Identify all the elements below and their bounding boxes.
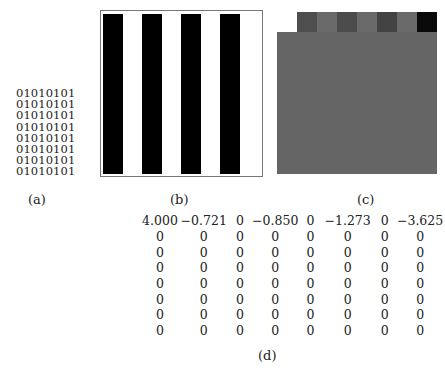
matrix-cell: 0	[230, 276, 251, 292]
matrix-cell: 0	[374, 213, 395, 229]
coefficient-cell	[357, 12, 377, 32]
matrix-cell: 0	[374, 229, 395, 245]
matrix-row: 00000000	[142, 323, 445, 339]
matrix-row: 4.000−0.7210−0.8500−1.2730−3.625	[142, 213, 445, 229]
matrix-cell: 0	[178, 229, 230, 245]
matrix-cell: 0	[300, 244, 321, 260]
matrix-cell: 0	[250, 307, 300, 323]
matrix-cell: 0	[374, 307, 395, 323]
matrix-cell: −1.273	[321, 213, 374, 229]
matrix-cell: 0	[300, 323, 321, 339]
black-stripe	[103, 14, 123, 174]
matrix-cell: 0	[374, 323, 395, 339]
matrix-cell: 0	[178, 307, 230, 323]
matrix-cell: 0	[321, 291, 374, 307]
matrix-cell: 0	[300, 276, 321, 292]
caption-d: (d)	[258, 348, 276, 363]
matrix-cell: 0	[395, 229, 445, 245]
matrix-cell: 0	[178, 276, 230, 292]
coefficient-cell	[317, 12, 337, 32]
matrix-row: 00000000	[142, 244, 445, 260]
matrix-cell: 0	[250, 260, 300, 276]
matrix-cell: 0	[321, 307, 374, 323]
matrix-cell: 0	[395, 291, 445, 307]
matrix-cell: 0	[230, 307, 251, 323]
matrix-cell: 0	[178, 291, 230, 307]
matrix-row: 00000000	[142, 291, 445, 307]
dct-coefficient-matrix: 4.000−0.7210−0.8500−1.2730−3.62500000000…	[142, 213, 445, 339]
stripe-image	[100, 10, 263, 177]
dct-coefficient-image	[277, 12, 437, 174]
matrix-cell: 0	[178, 323, 230, 339]
matrix-cell: 0	[321, 260, 374, 276]
coefficient-cell	[377, 12, 397, 32]
matrix-cell: −3.625	[395, 213, 445, 229]
matrix-cell: 0	[142, 323, 178, 339]
matrix-cell: 0	[250, 229, 300, 245]
matrix-cell: 0	[395, 260, 445, 276]
matrix-cell: 0	[321, 244, 374, 260]
matrix-cell: 0	[178, 260, 230, 276]
matrix-cell: 0	[142, 229, 178, 245]
matrix-cell: 0	[321, 229, 374, 245]
caption-a: (a)	[28, 192, 46, 207]
bit-pattern-block: 01010101 01010101 01010101 01010101 0101…	[16, 88, 75, 178]
matrix-cell: 0	[374, 291, 395, 307]
coefficient-block-background	[277, 32, 437, 174]
matrix-cell: 0	[250, 276, 300, 292]
matrix-cell: 0	[230, 213, 251, 229]
matrix-cell: 0	[395, 244, 445, 260]
matrix-row: 00000000	[142, 260, 445, 276]
matrix-cell: 0	[300, 260, 321, 276]
matrix-cell: 0	[250, 323, 300, 339]
matrix-cell: 0	[250, 244, 300, 260]
caption-b: (b)	[170, 192, 188, 207]
matrix-cell: 0	[142, 276, 178, 292]
matrix-cell: 0	[300, 229, 321, 245]
matrix-cell: 0	[300, 213, 321, 229]
matrix-cell: 0	[142, 260, 178, 276]
coefficient-cell	[297, 12, 317, 32]
matrix-row: 00000000	[142, 276, 445, 292]
matrix-cell: 0	[321, 276, 374, 292]
matrix-cell: 0	[230, 323, 251, 339]
coefficient-cell	[417, 12, 437, 32]
caption-c: (c)	[357, 192, 374, 207]
matrix-cell: 0	[395, 307, 445, 323]
black-stripe	[142, 14, 162, 174]
matrix-cell: 4.000	[142, 213, 178, 229]
matrix-cell: −0.850	[250, 213, 300, 229]
matrix-cell: 0	[395, 276, 445, 292]
bit-row: 01010101	[16, 166, 75, 177]
matrix-row: 00000000	[142, 229, 445, 245]
matrix-cell: 0	[142, 291, 178, 307]
matrix-cell: 0	[374, 244, 395, 260]
matrix-cell: 0	[374, 260, 395, 276]
matrix-cell: 0	[142, 244, 178, 260]
matrix-cell: 0	[300, 291, 321, 307]
matrix-cell: 0	[230, 244, 251, 260]
coefficient-cell	[277, 12, 297, 32]
matrix-cell: 0	[142, 307, 178, 323]
coefficient-cell	[337, 12, 357, 32]
matrix-cell: 0	[321, 323, 374, 339]
black-stripe	[220, 14, 240, 174]
matrix-cell: 0	[250, 291, 300, 307]
matrix-cell: 0	[178, 244, 230, 260]
matrix-cell: 0	[395, 323, 445, 339]
matrix-cell: 0	[230, 260, 251, 276]
matrix-row: 00000000	[142, 307, 445, 323]
black-stripe	[181, 14, 201, 174]
matrix-cell: 0	[230, 291, 251, 307]
coefficient-cell	[397, 12, 417, 32]
matrix-cell: 0	[300, 307, 321, 323]
matrix-cell: 0	[374, 276, 395, 292]
matrix-cell: −0.721	[178, 213, 230, 229]
matrix-cell: 0	[230, 229, 251, 245]
